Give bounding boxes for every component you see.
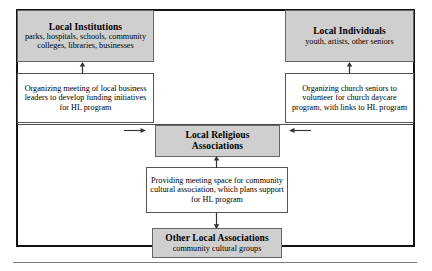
bottom-rule: [13, 262, 417, 263]
arrow-right-icon: [124, 126, 146, 135]
box-local-religious-associations-title: Local Religious Associations: [159, 130, 276, 151]
box-local-institutions-title: Local Institutions: [49, 22, 122, 33]
arrow-down-icon: [212, 213, 221, 229]
box-local-individuals[interactable]: Local Individuals youth, artists, other …: [285, 10, 414, 62]
arrow-up-icon: [212, 156, 221, 168]
box-local-institutions-subtitle: parks, hospitals, schools, community col…: [21, 32, 150, 50]
arrow-up-icon: [345, 62, 354, 74]
box-other-local-associations[interactable]: Other Local Associations community cultu…: [152, 228, 282, 258]
box-local-institutions[interactable]: Local Institutions parks, hospitals, sch…: [17, 10, 154, 62]
box-local-religious-associations[interactable]: Local Religious Associations: [155, 125, 280, 157]
arrow-up-icon: [78, 62, 87, 74]
box-note-institutions[interactable]: Organizing meeting of local business lea…: [17, 73, 154, 123]
arrow-left-icon: [289, 126, 311, 135]
box-other-local-associations-title: Other Local Associations: [165, 233, 269, 244]
box-other-local-associations-subtitle: community cultural groups: [173, 244, 262, 253]
box-note-religious-text: Providing meeting space for community cu…: [150, 176, 284, 204]
box-note-institutions-text: Organizing meeting of local business lea…: [21, 84, 150, 112]
box-local-individuals-subtitle: youth, artists, other seniors: [305, 37, 393, 46]
box-note-individuals-text: Organizing church seniors to volunteer f…: [289, 84, 410, 112]
box-local-individuals-title: Local Individuals: [313, 26, 386, 37]
box-note-religious[interactable]: Providing meeting space for community cu…: [146, 167, 288, 213]
box-note-individuals[interactable]: Organizing church seniors to volunteer f…: [285, 73, 414, 123]
diagram-canvas: Local Institutions parks, hospitals, sch…: [0, 0, 432, 271]
